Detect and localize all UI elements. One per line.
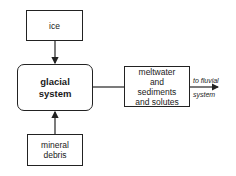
fluvial-label-top: to fluvial [193, 76, 219, 85]
node-outputs-line4: and solutes [135, 97, 178, 107]
node-glacial-line1: glacial [39, 76, 72, 88]
node-ice-label: ice [49, 21, 60, 31]
node-mineral-debris: mineral debris [27, 134, 83, 166]
node-ice: ice [26, 10, 83, 41]
node-outputs-line1: meltwater [135, 67, 178, 77]
node-outputs: meltwater and sediments and solutes [124, 66, 190, 107]
node-outputs-line2: and [135, 77, 178, 87]
node-debris-line2: debris [41, 150, 69, 160]
node-debris-line1: mineral [41, 140, 69, 150]
node-glacial-system: glacial system [17, 64, 93, 111]
node-glacial-line2: system [39, 88, 72, 100]
node-outputs-line3: sediments [135, 87, 178, 97]
fluvial-label-bottom: system [193, 90, 215, 99]
